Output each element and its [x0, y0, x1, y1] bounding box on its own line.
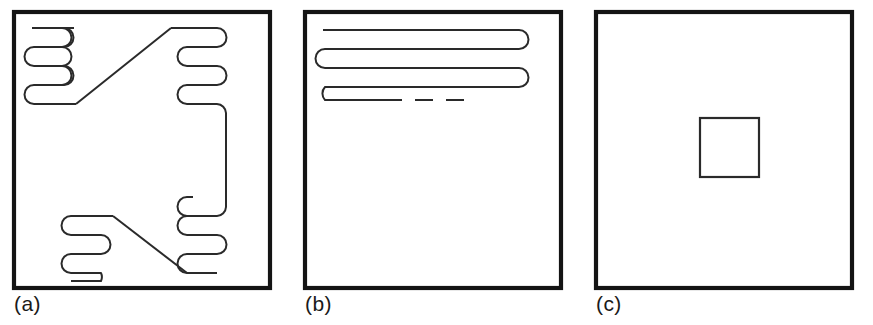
panel-a-serpentine-top-right [171, 28, 227, 104]
panel-c-drawing [582, 0, 873, 325]
panel-a-serpentine-bottom-right [178, 197, 227, 273]
figure-panel-b: (b) [291, 0, 582, 325]
panel-c-frame [596, 12, 852, 288]
panel-a-caption: (a) [14, 289, 41, 319]
panel-b-drawing [291, 0, 582, 325]
panel-a-vertical-connector-right [217, 104, 226, 216]
panel-b-frame [305, 12, 561, 288]
figure-root: (a) (b) (c) [0, 0, 873, 325]
panel-a-conductor-trace [34, 28, 74, 85]
panel-a-drawing [0, 0, 291, 325]
panel-a-diagonal-link-top [76, 28, 171, 104]
panel-b-serpentine-wide [316, 30, 529, 100]
panel-c-inner-square [700, 118, 759, 177]
panel-a-serpentine-top-left [25, 28, 77, 104]
panel-a-frame [14, 12, 270, 288]
figure-panel-c: (c) [582, 0, 873, 325]
panel-a-diagonal-link-bottom [113, 216, 187, 273]
figure-panel-a: (a) [0, 0, 291, 325]
panel-a-serpentine-bottom-left [62, 216, 114, 281]
panel-c-caption: (c) [596, 289, 622, 319]
panel-b-caption: (b) [305, 289, 332, 319]
